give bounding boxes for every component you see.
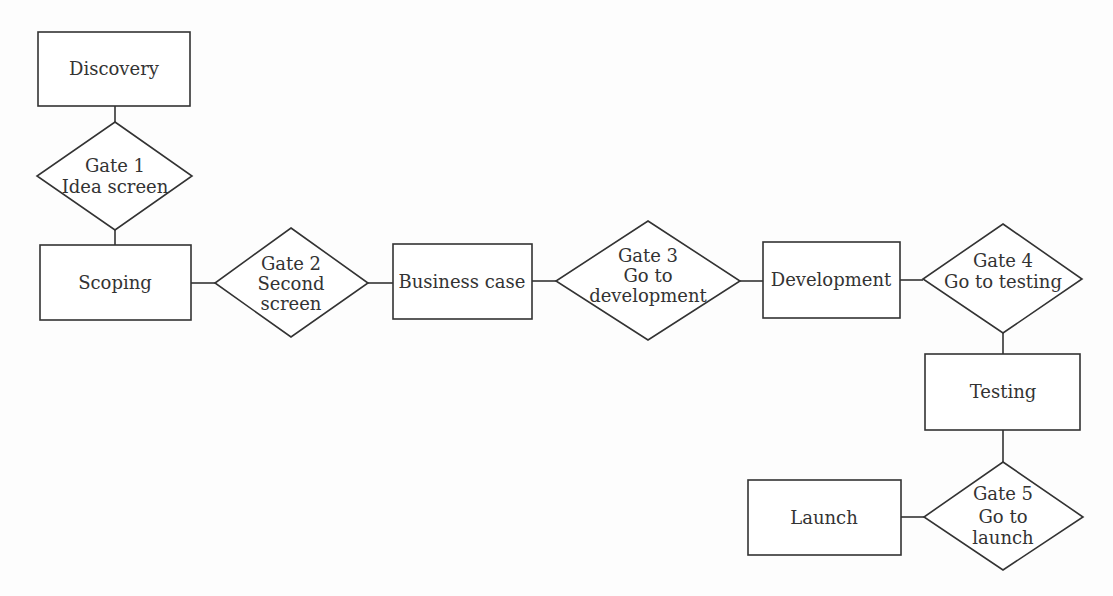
stage-label: Scoping [78, 272, 152, 293]
gate-label-line1: Gate 2 [261, 253, 321, 274]
stage-label: Launch [790, 507, 858, 528]
gate-label-line2: Go to [623, 265, 672, 286]
stage-scoping[interactable]: Scoping [40, 245, 191, 320]
gate-label-line2: Idea screen [62, 176, 169, 197]
gate-label-line2: Second [257, 273, 324, 294]
stage-label: Development [771, 269, 892, 290]
stage-launch[interactable]: Launch [748, 480, 901, 555]
stage-gate-diagram: Discovery Gate 1 Idea screen Scoping Gat… [0, 0, 1113, 596]
gate-label-line1: Gate 4 [973, 250, 1033, 271]
gate-label-line2: Go to testing [944, 271, 1062, 292]
stage-discovery[interactable]: Discovery [38, 32, 190, 106]
gate-1[interactable]: Gate 1 Idea screen [37, 122, 192, 230]
gate-5[interactable]: Gate 5 Go to launch [924, 462, 1083, 570]
gate-2[interactable]: Gate 2 Second screen [215, 228, 368, 337]
gate-4[interactable]: Gate 4 Go to testing [923, 224, 1082, 333]
gate-label-line3: screen [261, 293, 322, 314]
gate-label-line2: Go to [978, 506, 1027, 527]
stage-label: Discovery [69, 58, 160, 79]
stage-label: Testing [970, 381, 1037, 402]
gate-label-line1: Gate 5 [973, 483, 1033, 504]
gate-label-line3: development [589, 285, 707, 306]
stage-testing[interactable]: Testing [925, 354, 1080, 430]
stage-business-case[interactable]: Business case [393, 244, 532, 319]
gate-label-line1: Gate 1 [85, 155, 145, 176]
gate-label-line3: launch [972, 527, 1034, 548]
stage-development[interactable]: Development [763, 242, 900, 318]
gate-3[interactable]: Gate 3 Go to development [556, 221, 740, 340]
stage-label: Business case [399, 271, 526, 292]
gate-label-line1: Gate 3 [618, 245, 678, 266]
